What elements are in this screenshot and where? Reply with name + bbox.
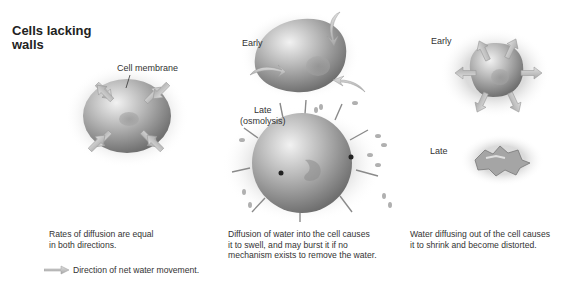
caption-line: Diffusion of water into the cell causes [228, 229, 377, 240]
caption-line: Rates of diffusion are equal [49, 229, 153, 240]
caption-line: Water diffusing out of the cell causes [410, 229, 550, 240]
hypertonic-late-label: Late [430, 146, 448, 157]
arrow-right-icon [44, 265, 70, 275]
late-label-line-1: Late [240, 105, 286, 116]
caption-line: it to swell, and may burst it if no [228, 240, 377, 251]
hypertonic-early-label: Early [431, 36, 452, 47]
hypertonic-caption: Water diffusing out of the cell causes i… [410, 229, 550, 250]
cell-membrane-label: Cell membrane [117, 63, 178, 74]
hypotonic-early-cell [240, 10, 365, 100]
caption-line: mechanism exists to remove the water. [228, 250, 377, 261]
caption-line: in both directions. [49, 240, 153, 251]
isotonic-caption: Rates of diffusion are equal in both dir… [49, 229, 153, 250]
hypotonic-caption: Diffusion of water into the cell causes … [228, 229, 377, 261]
late-label-line-2: (osmolysis) [240, 116, 286, 127]
legend-text: Direction of net water movement. [73, 265, 199, 275]
hypertonic-early-cell [440, 28, 550, 118]
hypotonic-late-label: Late (osmolysis) [240, 105, 286, 127]
isotonic-cell [65, 64, 189, 168]
caption-line: it to shrink and become distorted. [410, 240, 550, 251]
legend: Direction of net water movement. [44, 265, 199, 275]
hypotonic-early-label: Early [242, 38, 263, 49]
hypertonic-late-cell [460, 134, 544, 186]
